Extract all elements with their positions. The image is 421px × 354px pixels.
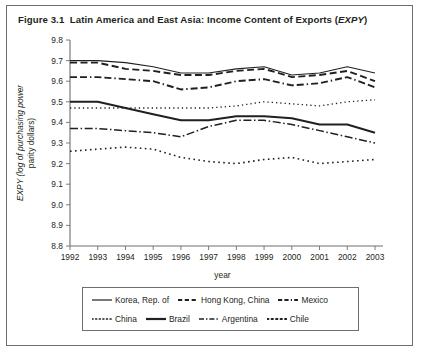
y-tick-label: 9.6	[51, 76, 63, 86]
chart-legend: Korea, Rep. ofHong Kong, ChinaMexico Chi…	[82, 287, 359, 331]
legend-label: China	[115, 314, 137, 324]
legend-item-brazil[interactable]: Brazil	[146, 314, 190, 324]
legend-row: Korea, Rep. ofHong Kong, ChinaMexico	[83, 291, 367, 309]
y-tick-label: 9.2	[51, 159, 63, 169]
legend-swatch	[92, 315, 112, 323]
legend-label: Hong Kong, China	[201, 295, 269, 305]
y-tick-label: 9.1	[51, 179, 63, 189]
series-line	[70, 77, 375, 89]
y-axis-title-line1: EXPY (log of purchasing power	[15, 84, 25, 201]
legend-swatch	[267, 315, 287, 323]
series-line	[70, 147, 375, 163]
x-tick-label: 1995	[144, 252, 163, 262]
y-tick-label: 9.0	[51, 200, 63, 210]
legend-swatch	[199, 315, 219, 323]
y-tick-label: 9.3	[51, 138, 63, 148]
legend-label: Chile	[290, 314, 309, 324]
y-tick-label: 9.5	[51, 97, 63, 107]
series-group	[70, 61, 375, 164]
legend-item-chile[interactable]: Chile	[267, 314, 309, 324]
legend-item-korea-rep-of[interactable]: Korea, Rep. of	[92, 295, 169, 305]
legend-swatch	[92, 296, 112, 304]
legend-label: Argentina	[222, 314, 258, 324]
x-tick-label: 1999	[255, 252, 274, 262]
legend-item-china[interactable]: China	[92, 314, 137, 324]
x-tick-label: 2003	[366, 252, 385, 262]
x-tick-label: 2002	[338, 252, 357, 262]
x-tick-label: 2000	[282, 252, 301, 262]
legend-item-argentina[interactable]: Argentina	[199, 314, 258, 324]
x-tick-label: 1994	[116, 252, 135, 262]
x-tick-label: 1993	[88, 252, 107, 262]
x-tick-label: 1992	[61, 252, 80, 262]
legend-swatch	[146, 315, 166, 323]
x-tick-label: 1996	[172, 252, 191, 262]
y-axis-title-line2: parity dollars)	[26, 118, 36, 168]
x-axis-title: year	[214, 270, 231, 280]
y-tick-label: 9.4	[51, 117, 63, 127]
x-axis-ticks: 1992199319941995199619971998199920002001…	[61, 246, 385, 262]
legend-item-mexico[interactable]: Mexico	[278, 295, 328, 305]
y-tick-label: 9.7	[51, 56, 63, 66]
legend-label: Brazil	[169, 314, 190, 324]
series-line	[70, 102, 375, 133]
x-tick-label: 2001	[310, 252, 329, 262]
y-axis-ticks: 8.88.99.09.19.29.39.49.59.69.79.8	[51, 35, 70, 251]
y-tick-label: 9.8	[51, 35, 63, 45]
legend-swatch	[178, 296, 198, 304]
x-tick-label: 1998	[227, 252, 246, 262]
y-tick-label: 8.8	[51, 241, 63, 251]
legend-label: Korea, Rep. of	[115, 295, 169, 305]
legend-swatch	[278, 296, 298, 304]
x-tick-label: 1997	[199, 252, 218, 262]
legend-label: Mexico	[301, 295, 328, 305]
y-tick-label: 8.9	[51, 220, 63, 230]
legend-item-hong-kong-china[interactable]: Hong Kong, China	[178, 295, 269, 305]
legend-row: ChinaBrazilArgentinaChile	[83, 310, 367, 328]
